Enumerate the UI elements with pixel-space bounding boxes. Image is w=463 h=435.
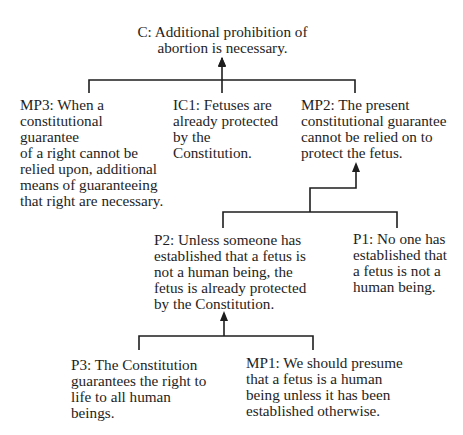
node-P2: P2: Unless someone has established that … xyxy=(154,232,314,312)
node-MP2: MP2: The present constitutional guarante… xyxy=(301,97,451,161)
connector-to-C xyxy=(89,57,355,93)
node-P3: P3: The Constitution guarantees the righ… xyxy=(71,357,216,421)
node-MP3: MP3: When a constitutional guarantee of … xyxy=(20,97,165,209)
node-MP1: MP1: We should presume that a fetus is a… xyxy=(246,355,406,419)
connector-to-MP2 xyxy=(223,162,397,228)
node-P1: P1: No one has established that a fetus … xyxy=(353,231,453,295)
connector-to-P2 xyxy=(139,311,313,350)
node-C-conclusion: C: Additional prohibition of abortion is… xyxy=(130,24,315,56)
node-IC1: IC1: Fetuses are already protected by th… xyxy=(173,97,283,161)
